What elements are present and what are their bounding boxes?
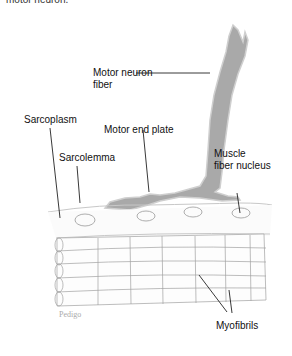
illustrator-credit: Pedigo [59,310,81,319]
label-myofibrils: Myofibrils [216,320,258,332]
myofibrils-bundle [55,234,266,306]
label-sarcolemma: Sarcolemma [59,152,115,164]
motor-neuron-fiber [105,25,248,210]
neuromuscular-junction-illustration [0,0,292,356]
label-muscle-fiber-nucleus-line1: Muscle [214,148,246,160]
label-motor-end-plate: Motor end plate [104,124,174,136]
label-sarcoplasm: Sarcoplasm [24,114,77,126]
label-muscle-fiber-nucleus-line2: fiber nucleus [214,160,271,172]
label-motor-neuron-fiber-line1: Motor neuron [93,67,152,79]
label-motor-neuron-fiber-line2: fiber [93,79,112,91]
